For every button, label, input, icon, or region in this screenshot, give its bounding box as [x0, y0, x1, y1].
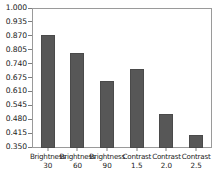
bar-slot [122, 9, 152, 148]
x-axis-tick-label-value: 2.0 [161, 161, 172, 170]
y-axis-tick-label: 0.415 [6, 128, 27, 138]
y-axis-tick-mark [28, 91, 32, 92]
x-axis-tick-label-category: Contrast [122, 152, 151, 161]
bar[interactable] [100, 81, 114, 148]
bar[interactable] [130, 69, 144, 148]
x-axis-tick-mark [107, 148, 108, 151]
bar-slot [63, 9, 93, 148]
x-axis-tick-mark [196, 148, 197, 151]
y-axis-tick-label: 0.935 [6, 17, 27, 27]
bars-group [33, 9, 211, 148]
bar-slot [92, 9, 122, 148]
y-axis-tick-mark [28, 147, 32, 148]
y-axis-tick-mark [28, 105, 32, 106]
x-axis: Brightness30Brightness60Brightness90Cont… [33, 148, 211, 182]
y-axis-tick-mark [28, 21, 32, 22]
y-axis-tick-mark [28, 133, 32, 134]
bar-slot [181, 9, 211, 148]
bar[interactable] [189, 135, 203, 148]
y-axis-tick-mark [28, 119, 32, 120]
y-axis-tick-label: 0.545 [6, 100, 27, 110]
bar-chart: 0.3500.4150.4800.5450.6100.6750.7400.805… [0, 0, 221, 182]
x-axis-tick-label-category: Brightness [89, 152, 125, 161]
x-axis-tick-label-value: 30 [43, 161, 52, 170]
x-axis-tick-mark [77, 148, 78, 151]
y-axis-tick-mark [28, 77, 32, 78]
y-axis-tick-mark [28, 63, 32, 64]
y-axis-tick-label: 1.000 [6, 3, 27, 13]
x-axis-tick-label-value: 2.5 [190, 161, 201, 170]
bar[interactable] [41, 35, 55, 148]
bar[interactable] [159, 114, 173, 148]
y-axis-tick-mark [28, 49, 32, 50]
x-axis-tick-label-value: 90 [103, 161, 112, 170]
y-axis: 0.3500.4150.4800.5450.6100.6750.7400.805… [0, 8, 32, 149]
x-axis-tick-mark [166, 148, 167, 151]
bar[interactable] [70, 53, 84, 148]
y-axis-tick-label: 0.610 [6, 86, 27, 96]
x-axis-tick-label-value: 1.5 [131, 161, 142, 170]
bar-slot [152, 9, 182, 148]
x-axis-tick-mark [136, 148, 137, 151]
y-axis-tick-label: 0.480 [6, 114, 27, 124]
y-axis-tick-mark [28, 8, 32, 9]
x-axis-tick-label-category: Contrast [182, 152, 211, 161]
y-axis-tick-label: 0.805 [6, 45, 27, 55]
x-axis-tick-mark [47, 148, 48, 151]
y-axis-tick-label: 0.350 [6, 142, 27, 152]
x-axis-tick-label-value: 60 [73, 161, 82, 170]
y-axis-tick-mark [28, 35, 32, 36]
x-axis-tick-label-category: Contrast [152, 152, 181, 161]
bar-slot [33, 9, 63, 148]
y-axis-tick-label: 0.675 [6, 73, 27, 83]
y-axis-tick-label: 0.740 [6, 59, 27, 69]
y-axis-tick-label: 0.870 [6, 31, 27, 41]
